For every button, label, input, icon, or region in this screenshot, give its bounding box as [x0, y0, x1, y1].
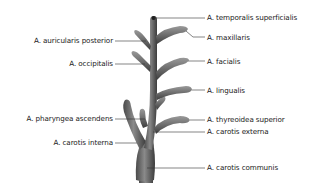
label-maxillaris: A. maxillaris: [207, 33, 250, 42]
label-pharyngea-ascendens: A. pharyngea ascendens: [27, 114, 113, 123]
label-carotis-interna: A. carotis interna: [53, 138, 113, 147]
artery-illustration: [0, 0, 312, 183]
label-thyreoidea-superior: A. thyreoidea superior: [207, 115, 285, 124]
label-carotis-externa: A. carotis externa: [207, 127, 269, 136]
label-temporalis-superficialis: A. temporalis superficialis: [207, 13, 297, 22]
label-auricularis-posterior: A. auricularis posterior: [34, 36, 113, 45]
label-occipitalis: A. occipitalis: [69, 59, 113, 68]
carotid-artery-diagram: A. temporalis superficialis A. maxillari…: [0, 0, 312, 183]
label-carotis-communis: A. carotis communis: [207, 163, 278, 172]
label-facialis: A. facialis: [207, 57, 240, 66]
label-lingualis: A. lingualis: [207, 86, 245, 95]
